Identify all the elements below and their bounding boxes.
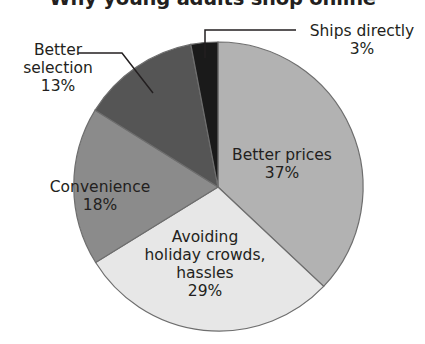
pie-label-avoiding-crowds-percent: 29% bbox=[122, 282, 288, 300]
pie-label-avoiding-crowds-line1: Avoiding bbox=[172, 228, 238, 246]
pie-label-avoiding-crowds-line3: hassles bbox=[122, 264, 288, 282]
pie-label-convenience-percent: 18% bbox=[36, 196, 164, 214]
pie-label-avoiding-crowds-line2: holiday crowds, bbox=[122, 246, 288, 264]
pie-chart-figure: Why young adults shop online Ships direc… bbox=[0, 0, 425, 344]
pie-label-convenience: Convenience 18% bbox=[36, 178, 164, 214]
pie-label-better-prices-text: Better prices bbox=[232, 146, 332, 164]
pie-label-convenience-text: Convenience bbox=[50, 178, 150, 196]
pie-label-better-selection: Better selection 13% bbox=[2, 41, 114, 95]
pie-label-better-prices: Better prices 37% bbox=[218, 146, 346, 182]
pie-label-better-selection-line1: Better bbox=[34, 41, 82, 59]
pie-label-better-selection-line2: selection bbox=[2, 59, 114, 77]
pie-label-better-prices-percent: 37% bbox=[218, 164, 346, 182]
pie-label-avoiding-crowds: Avoiding holiday crowds, hassles 29% bbox=[122, 228, 288, 301]
pie-label-better-selection-percent: 13% bbox=[2, 77, 114, 95]
pie-label-ships-directly-percent: 3% bbox=[299, 40, 425, 58]
pie-label-ships-directly: Ships directly 3% bbox=[299, 22, 425, 58]
pie-label-ships-directly-text: Ships directly bbox=[310, 22, 415, 40]
